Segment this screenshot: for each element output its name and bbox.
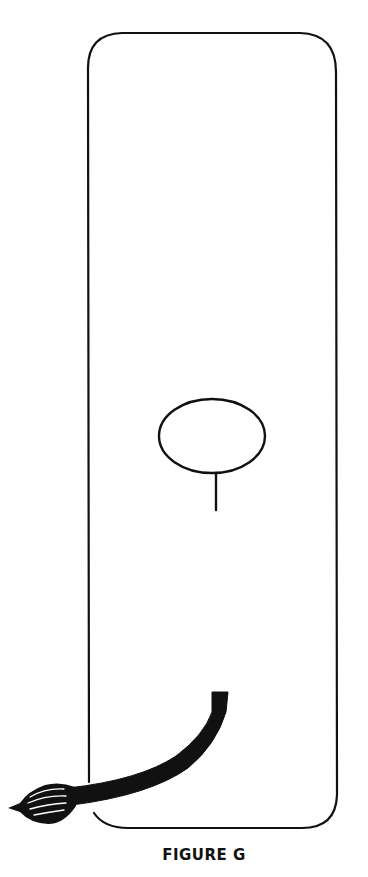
oval-shape (159, 399, 265, 473)
figure-drawing (0, 0, 368, 877)
paintbrush-head (8, 783, 76, 824)
figure-caption: FIGURE G (0, 846, 368, 864)
paintbrush-handle (68, 692, 228, 805)
